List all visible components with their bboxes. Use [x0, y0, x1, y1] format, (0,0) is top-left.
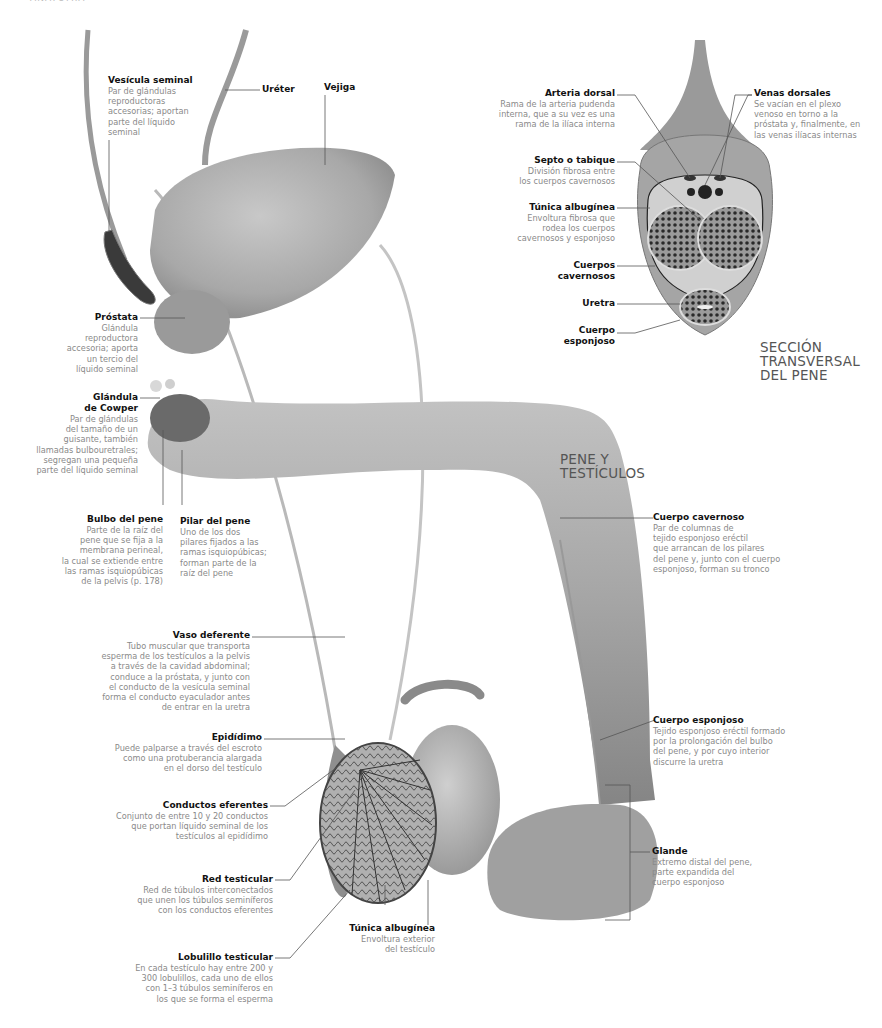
label-red-testicular: Red testicular Red de túbulos interconec… [100, 874, 273, 916]
label-bulbo-pene: Bulbo del pene Parte de la raíz del pene… [20, 514, 163, 586]
label-venas-dorsales: Venas dorsales Se vacían en el plexo ven… [754, 88, 882, 140]
label-lobulillo-testicular: Lobulillo testicular En cada testículo h… [100, 952, 273, 1004]
label-uretra: Uretra [520, 298, 615, 309]
label-tunica-albuginea-testiculo: Túnica albugínea Envoltura exterior del … [345, 923, 435, 954]
label-tunica-albuginea-pene: Túnica albugínea Envoltura fibrosa que r… [480, 202, 615, 244]
label-cuerpo-esponjoso: Cuerpo esponjoso Tejido esponjoso erécti… [653, 715, 803, 767]
main-title: PENE Y TESTÍCULOS [560, 452, 645, 480]
label-pilar-pene: Pilar del pene Uno de los dos pilares fi… [180, 516, 280, 578]
label-cuerpos-cavernosos: Cuerpos cavernosos [520, 260, 615, 282]
label-glandula-cowper: Glándula de Cowper Par de glándulas del … [20, 392, 138, 475]
label-prostata: Próstata Glándula reproductora accesoria… [40, 312, 138, 374]
label-cuerpo-cavernoso: Cuerpo cavernoso Par de columnas de teji… [653, 512, 793, 574]
cross-section-figure [638, 40, 773, 335]
vas-deferens-right-tube [380, 245, 423, 740]
label-vesicula-seminal: Vesícula seminal Par de glándulas reprod… [108, 75, 218, 137]
glans-shape [487, 804, 657, 920]
label-glande: Glande Extremo distal del pene, parte ex… [652, 846, 762, 888]
label-vaso-deferente: Vaso deferente Tubo muscular que transpo… [100, 630, 250, 712]
penis-bulb-shape [150, 394, 210, 442]
label-conductos-eferentes: Conductos eferentes Conjunto de entre 10… [100, 800, 268, 842]
ureter-left-tube [86, 30, 125, 260]
label-cuerpo-esponjoso-seccion: Cuerpo esponjoso [520, 325, 615, 347]
seminal-vesicle-shape [104, 230, 155, 304]
label-septo-tabique: Septo o tabique División fibrosa entre l… [480, 155, 615, 186]
epididymis-right-shape [405, 684, 480, 700]
label-epididimo: Epidídimo Puede palparse a través del es… [100, 732, 262, 774]
prostate-shape [154, 290, 230, 354]
cross-section-title: SECCIÓN TRANSVERSAL DEL PENE [760, 340, 860, 382]
label-vejiga: Vejiga [324, 82, 355, 93]
label-arteria-dorsal: Arteria dorsal Rama de la arteria pudend… [470, 88, 615, 130]
label-ureter: Uréter [262, 84, 295, 95]
